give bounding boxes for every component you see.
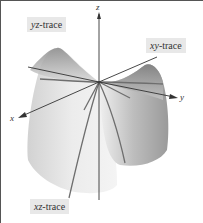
z-axis-label: z <box>96 2 100 12</box>
y-arrowhead <box>169 94 178 99</box>
y-axis-label: y <box>180 92 184 102</box>
xy-trace-label-var: xy <box>150 40 159 51</box>
xz-trace-label: xz-trace <box>30 199 69 214</box>
yz-trace-label-suffix: -trace <box>39 19 62 30</box>
xy-trace-label-suffix: -trace <box>159 40 182 51</box>
z-arrowhead <box>97 12 101 19</box>
x-arrowhead <box>18 112 27 118</box>
xy-trace-label: xy-trace <box>146 38 186 53</box>
xz-trace-label-suffix: -trace <box>42 201 65 212</box>
yz-trace-label: yz-trace <box>27 17 66 32</box>
saddle-surface-figure <box>0 0 203 223</box>
x-axis-label: x <box>10 113 14 123</box>
